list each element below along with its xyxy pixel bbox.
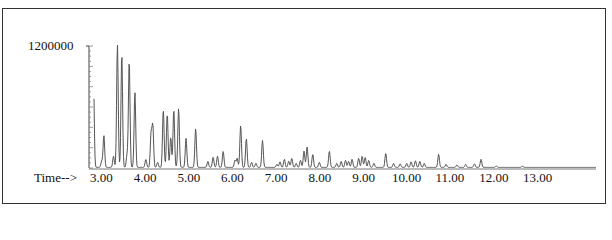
x-tick-label: 5.00 <box>177 170 200 186</box>
x-tick-label: 12.00 <box>479 170 508 186</box>
x-tick-label: 13.00 <box>523 170 552 186</box>
x-tick-label: 11.00 <box>436 170 465 186</box>
x-tick-label: 3.00 <box>90 170 113 186</box>
x-tick-label: 4.00 <box>134 170 157 186</box>
x-tick-label: 10.00 <box>392 170 421 186</box>
x-tick-label: 8.00 <box>309 170 332 186</box>
x-tick-label: 9.00 <box>352 170 375 186</box>
x-tick-label: 6.00 <box>221 170 244 186</box>
x-tick-label: 7.00 <box>265 170 288 186</box>
chromatogram-trace <box>94 45 596 167</box>
